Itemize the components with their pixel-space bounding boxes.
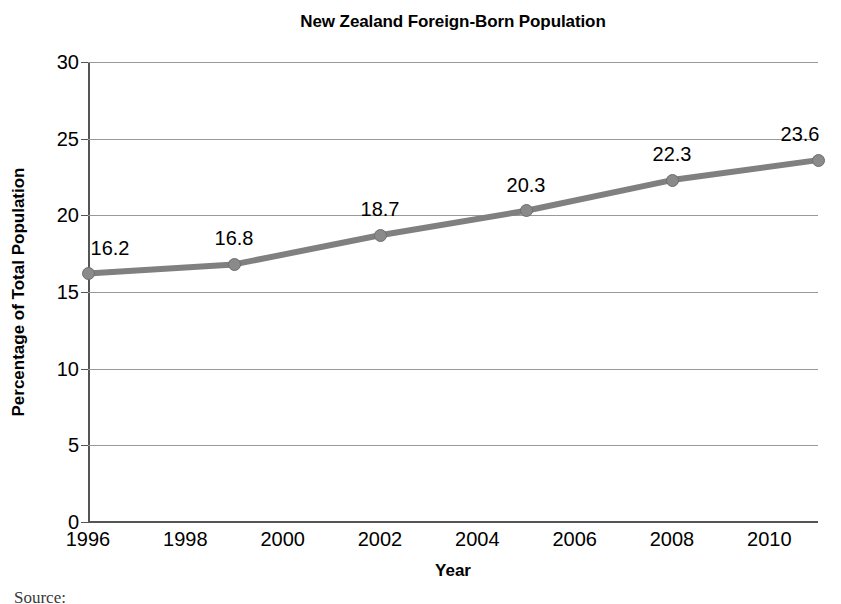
y-axis-title: Percentage of Total Population <box>6 62 32 522</box>
data-point-label: 22.3 <box>653 143 692 166</box>
y-tick-mark <box>81 369 88 370</box>
y-tick-label: 25 <box>57 127 79 150</box>
data-point-label: 18.7 <box>361 198 400 221</box>
y-tick-mark <box>81 292 88 293</box>
data-point-marker <box>812 154 825 167</box>
y-tick-mark <box>81 62 88 63</box>
plot-area: 051015202530 199619982000200220042006200… <box>88 62 818 522</box>
y-tick-mark <box>81 522 88 523</box>
data-point-label: 20.3 <box>507 174 546 197</box>
x-tick-label-2002: 2002 <box>358 528 403 551</box>
data-point-marker <box>520 204 533 217</box>
data-point-label: 16.8 <box>215 227 254 250</box>
y-tick-label: 20 <box>57 204 79 227</box>
x-tick-label-2000: 2000 <box>260 528 305 551</box>
x-tick-label-2006: 2006 <box>552 528 597 551</box>
x-tick-label-2004: 2004 <box>455 528 500 551</box>
x-tick-label-1998: 1998 <box>163 528 208 551</box>
x-tick-label-2010: 2010 <box>747 528 792 551</box>
data-point-marker <box>228 258 241 271</box>
y-tick-mark <box>81 445 88 446</box>
x-tick-label-1996: 1996 <box>66 528 111 551</box>
y-tick-mark <box>81 215 88 216</box>
data-point-label: 16.2 <box>91 237 130 260</box>
y-tick-label: 5 <box>68 434 79 457</box>
y-tick-label: 10 <box>57 357 79 380</box>
x-tick-label-2008: 2008 <box>650 528 695 551</box>
data-point-marker <box>82 267 95 280</box>
chart-title: New Zealand Foreign-Born Population <box>88 12 818 32</box>
source-note: Source: <box>14 589 66 604</box>
y-tick-label: 15 <box>57 281 79 304</box>
chart-figure: New Zealand Foreign-Born Population Perc… <box>0 0 841 604</box>
x-axis-title: Year <box>88 561 818 581</box>
data-point-marker <box>666 174 679 187</box>
y-tick-label: 30 <box>57 51 79 74</box>
line-series <box>88 62 818 522</box>
data-point-label: 23.6 <box>781 123 820 146</box>
data-point-marker <box>374 229 387 242</box>
y-tick-mark <box>81 139 88 140</box>
